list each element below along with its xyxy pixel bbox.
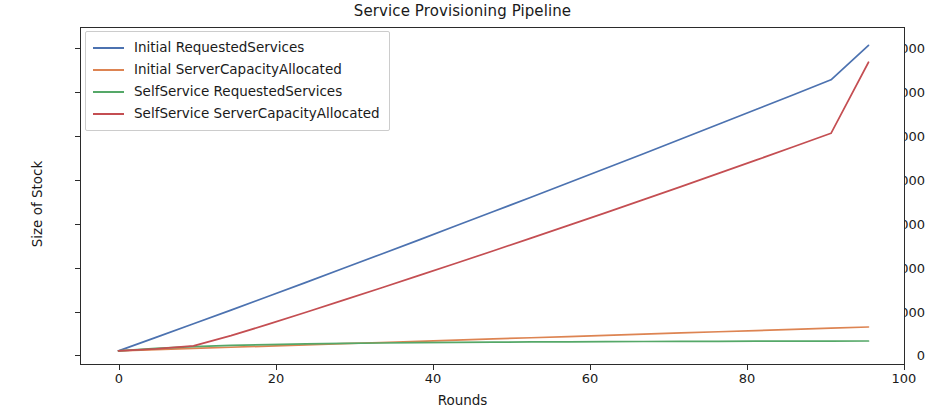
legend-item-initial-requestedservices: Initial RequestedServices (93, 37, 380, 59)
legend-label-2: SelfService RequestedServices (134, 85, 342, 99)
legend-swatch-icon-2 (93, 91, 124, 93)
legend-item-initial-servercapacityallocated: Initial ServerCapacityAllocated (93, 59, 380, 81)
chart-legend: Initial RequestedServices Initial Server… (85, 31, 390, 131)
legend-item-selfservice-requestedservices: SelfService RequestedServices (93, 81, 380, 103)
legend-item-selfservice-servercapacityallocated: SelfService ServerCapacityAllocated (93, 103, 380, 125)
x-tick-mark-20 (276, 365, 277, 370)
legend-swatch-icon-0 (93, 47, 124, 49)
legend-swatch-icon-1 (93, 69, 124, 71)
x-tick-label-20: 20 (246, 372, 306, 385)
x-tick-label-80: 80 (717, 372, 777, 385)
x-tick-label-40: 40 (403, 372, 463, 385)
legend-label-3: SelfService ServerCapacityAllocated (134, 107, 380, 121)
x-axis-label: Rounds (0, 392, 925, 408)
x-tick-label-0: 0 (89, 372, 149, 385)
x-tick-mark-0 (119, 365, 120, 370)
x-tick-mark-80 (747, 365, 748, 370)
legend-label-0: Initial RequestedServices (134, 41, 304, 55)
x-tick-label-100: 100 (874, 372, 925, 385)
legend-swatch-icon-3 (93, 113, 124, 115)
line-selfservice-requestedservices (119, 341, 869, 351)
chart-figure: Service Provisioning Pipeline Size of St… (0, 0, 925, 415)
chart-title: Service Provisioning Pipeline (0, 2, 925, 20)
x-tick-label-60: 60 (560, 372, 620, 385)
x-tick-mark-40 (433, 365, 434, 370)
x-tick-mark-60 (590, 365, 591, 370)
line-initial-servercapacityallocated (119, 327, 869, 351)
legend-label-1: Initial ServerCapacityAllocated (134, 63, 342, 77)
x-tick-mark-100 (904, 365, 905, 370)
y-axis-label: Size of Stock (29, 129, 45, 279)
